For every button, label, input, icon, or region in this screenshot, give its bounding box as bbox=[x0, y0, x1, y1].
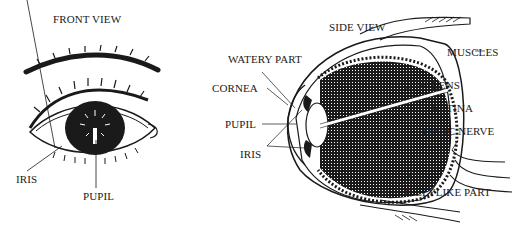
front-view-eye bbox=[26, 0, 158, 188]
retina-label: RETINA bbox=[432, 102, 473, 114]
front-pupil-label: PUPIL bbox=[83, 190, 114, 202]
side-pupil-label: PUPIL bbox=[225, 118, 256, 130]
side-iris-label: IRIS bbox=[240, 148, 261, 160]
eyebrow bbox=[26, 55, 158, 72]
lens-label: LENS bbox=[432, 79, 460, 91]
cornea-label: CORNEA bbox=[212, 82, 258, 94]
eye-diagram: FRONT VIEW IRIS PUPIL SIDE VIEW WATERY P… bbox=[0, 0, 521, 232]
watery-part-label: WATERY PART bbox=[228, 53, 302, 65]
muscles-label: MUSCLES bbox=[447, 46, 498, 58]
front-view-title: FRONT VIEW bbox=[53, 13, 121, 25]
side-view-title: SIDE VIEW bbox=[329, 21, 386, 33]
optic-nerve-label: OPTIC NERVE bbox=[423, 125, 494, 137]
jellylike-part-label: JELLYLIKE PART bbox=[404, 186, 491, 198]
front-iris-label: IRIS bbox=[16, 173, 37, 185]
